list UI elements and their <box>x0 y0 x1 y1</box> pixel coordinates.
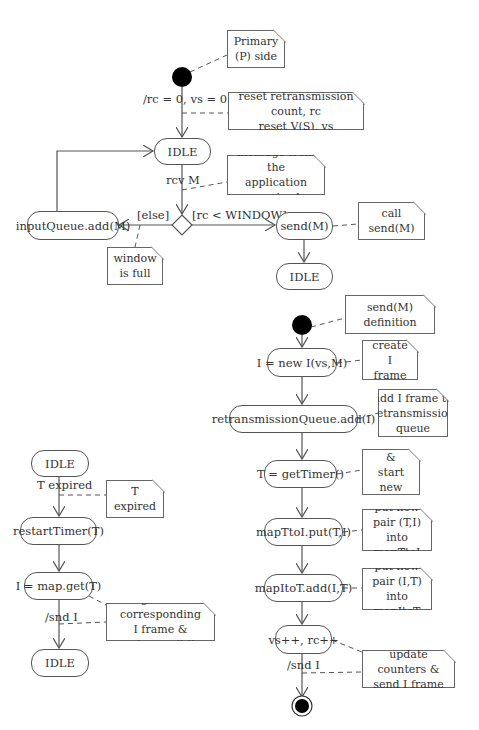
state-map-t-to-i-put: mapTtoI.put(T,I) <box>264 518 343 546</box>
state-map-get: I = map.get(T) <box>24 572 93 600</box>
note-retransmit: get the corresponding I frame & retransm… <box>106 603 215 641</box>
state-restart-timer: restartTimer(T) <box>20 517 97 545</box>
note-create-i-frame: create I frame <box>362 340 418 380</box>
note-send-definition: send(M) definition <box>345 295 435 334</box>
note-call-send: call send(M) <box>358 202 425 240</box>
note-primary-side: Primary (P) side <box>227 30 285 68</box>
state-map-i-to-t-add: mapItoT.add(I,T) <box>264 574 343 602</box>
note-put-t-i-pair: put new pair (T,I) into mapTtoI <box>362 509 432 551</box>
note-add-to-retransmission-queue: add I frame to retransmission queue <box>378 389 448 437</box>
state-idle-after-send: IDLE <box>276 263 333 290</box>
state-increment-counters: vs++, rc++ <box>275 625 332 654</box>
state-get-timer: T = getTimer() <box>264 460 337 488</box>
init-transition-label: /rc = 0, vs = 0 <box>143 92 227 106</box>
snd-i-label-timer: /snd I <box>45 610 78 624</box>
else-guard-label: [else] <box>137 208 169 222</box>
state-input-queue-add: inputQueue.add(M) <box>27 211 119 240</box>
decision-diamond <box>172 215 192 235</box>
state-idle-after-retransmit: IDLE <box>31 649 89 677</box>
note-t-expired: T expired <box>106 480 164 518</box>
window-guard-label: [rc < WINDOW] <box>192 208 287 222</box>
note-allocate-timer: allocate & start new timer <box>362 449 420 495</box>
initial-node-send-definition <box>292 315 312 335</box>
state-idle-timer: IDLE <box>31 450 89 477</box>
rcv-m-label: rcv M <box>166 173 200 187</box>
note-message-received: message from the application received <box>227 155 325 195</box>
note-window-full: window is full <box>107 247 163 285</box>
note-put-i-t-pair: put new pair (I,T) into mapItoT <box>362 568 432 610</box>
state-send-m: send(M) <box>276 212 333 240</box>
t-expired-label: T expired <box>37 478 92 492</box>
state-retransmission-queue-add: retransmissionQueue.add(I) <box>229 405 358 433</box>
note-reset-counters: reset retransmission count, rc reset V(S… <box>228 92 364 130</box>
state-new-i-frame: I = new I(vs,M) <box>267 348 337 377</box>
note-update-counters: update counters & send I frame <box>362 650 455 688</box>
initial-node-top <box>172 67 192 87</box>
state-idle-top: IDLE <box>154 138 211 165</box>
snd-i-label-send: /snd I <box>287 658 320 672</box>
